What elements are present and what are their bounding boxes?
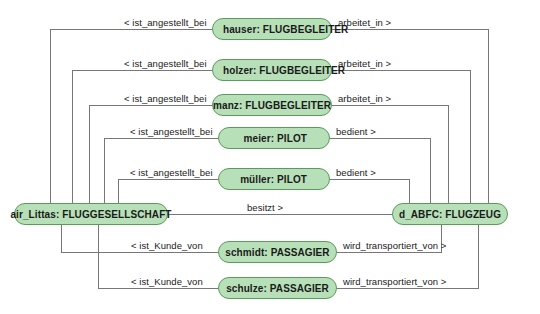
object-diagram-canvas: hauser: FLUGBEGLEITER holzer: FLUGBEGLEI… [0, 0, 540, 314]
node-schmidt-label: schmidt: PASSAGIER [225, 247, 329, 258]
edge-label-meier-aircraft: bedient > [336, 126, 376, 137]
node-aircraft[interactable]: d_ABFC: FLUGZEUG [392, 203, 508, 225]
node-schulze[interactable]: schulze: PASSAGIER [218, 277, 337, 299]
edge-label-airline-manz: < ist_angestellt_bei [124, 93, 207, 104]
edge-manz-aircraft [332, 105, 448, 207]
edge-label-airline-meier: < ist_angestellt_bei [130, 126, 213, 137]
node-airline-label: air_Littas: FLUGGESELLSCHAFT [10, 209, 171, 220]
edge-label-airline-holzer: < ist_angestellt_bei [124, 58, 207, 69]
edge-label-airline-aircraft-besitzt: besitzt > [247, 202, 283, 213]
node-meier[interactable]: meier: PILOT [218, 127, 330, 149]
node-hauser[interactable]: hauser: FLUGBEGLEITER [212, 18, 332, 40]
edge-label-airline-schmidt: < ist_Kunde_von [131, 240, 203, 251]
node-hauser-label: hauser: FLUGBEGLEITER [223, 24, 348, 35]
node-airline[interactable]: air_Littas: FLUGGESELLSCHAFT [14, 203, 168, 225]
node-mueller[interactable]: müller: PILOT [218, 168, 330, 190]
node-schmidt[interactable]: schmidt: PASSAGIER [218, 241, 337, 263]
edge-label-airline-hauser: < ist_angestellt_bei [124, 17, 207, 28]
edge-airline-hauser [50, 29, 212, 207]
edge-label-schulze-aircraft: wird_transportiert_von > [343, 276, 446, 287]
node-mueller-label: müller: PILOT [240, 174, 307, 185]
node-schulze-label: schulze: PASSAGIER [226, 283, 329, 294]
edge-label-mueller-aircraft: bedient > [336, 167, 376, 178]
edge-label-schmidt-aircraft: wird_transportiert_von > [343, 240, 446, 251]
edge-hauser-aircraft [332, 29, 488, 207]
edge-layer [0, 0, 540, 314]
edge-label-holzer-aircraft: arbeitet_in > [338, 58, 391, 69]
node-meier-label: meier: PILOT [244, 133, 307, 144]
node-holzer-label: holzer: FLUGBEGLEITER [223, 65, 345, 76]
node-holzer[interactable]: holzer: FLUGBEGLEITER [212, 59, 332, 81]
edge-mueller-aircraft [330, 179, 409, 207]
edge-label-airline-schulze: < ist_Kunde_von [131, 276, 203, 287]
edge-label-manz-aircraft: arbeitet_in > [338, 93, 391, 104]
edge-label-airline-mueller: < ist_angestellt_bei [130, 167, 213, 178]
node-aircraft-label: d_ABFC: FLUGZEUG [399, 209, 501, 220]
node-manz-label: manz: FLUGBEGLEITER [213, 100, 331, 111]
edge-label-hauser-aircraft: arbeitet_in > [338, 17, 391, 28]
edge-airline-manz [89, 105, 212, 207]
node-manz[interactable]: manz: FLUGBEGLEITER [212, 94, 332, 116]
